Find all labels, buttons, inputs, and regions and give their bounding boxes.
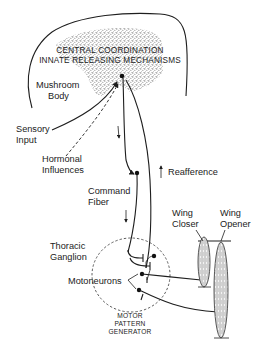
motoneurons-label: Motoneurons	[68, 276, 122, 286]
opener-pointer	[221, 230, 225, 241]
hormonal-influences-label: Hormonal	[42, 154, 82, 164]
mushroom-body-label: Mushroom	[36, 80, 80, 90]
wing-closer-label-2: Closer	[172, 219, 199, 229]
sensory-input-label: Sensory	[16, 124, 50, 134]
reafference-label: Reafference	[168, 167, 218, 177]
motor-axon-closer	[142, 274, 201, 280]
hormonal-influences-label-2: Influences	[42, 165, 84, 175]
downward-arrow-upper	[118, 126, 119, 138]
thoracic-ganglion-circle	[92, 238, 170, 312]
wing-opener-muscle	[214, 242, 228, 338]
wing-closer-label: Wing	[172, 208, 193, 218]
command-fiber-dot	[135, 171, 139, 175]
mpg-label-1: MOTOR	[117, 312, 142, 319]
wing-closer-muscle	[198, 237, 210, 287]
mushroom-body-label-2: Body	[48, 91, 69, 101]
thoracic-ganglion-label-2: Ganglion	[50, 252, 87, 262]
mpg-label-2: PATTERN	[114, 320, 145, 327]
sensory-input-label-2: Input	[16, 135, 37, 145]
ganglion-interneuron-dot	[152, 254, 156, 258]
ganglion-branch-1	[128, 250, 143, 258]
command-fiber-label: Command	[88, 186, 130, 196]
synapse-bar-4	[141, 294, 143, 300]
closer-pointer	[196, 230, 203, 241]
wing-opener-label: Wing	[220, 208, 241, 218]
command-fiber-label-2: Fiber	[88, 197, 109, 207]
innate-releasing-mechanisms-label: INNATE RELEASING MECHANISMS	[39, 56, 181, 65]
central-neuron-dot	[120, 74, 125, 79]
wing-opener-label-2: Opener	[220, 219, 251, 229]
central-coordination-label: CENTRAL COORDINATION	[56, 46, 163, 55]
thoracic-ganglion-label: Thoracic	[50, 241, 86, 251]
insect-flight-control-diagram: CENTRAL COORDINATION INNATE RELEASING ME…	[0, 0, 272, 350]
motoneuron-pointer	[128, 274, 138, 289]
motor-axon-opener	[139, 290, 218, 312]
mpg-label-3: GENERATOR	[109, 328, 152, 335]
